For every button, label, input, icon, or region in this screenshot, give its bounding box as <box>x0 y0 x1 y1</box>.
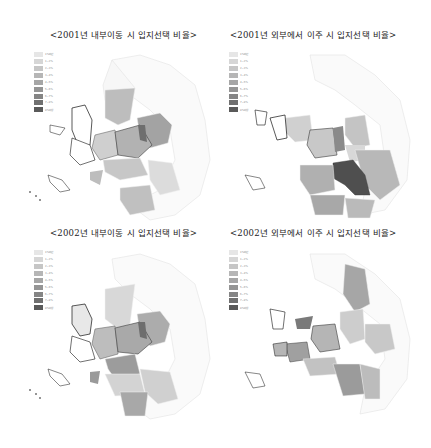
legend-item: 8%이상 <box>229 107 248 113</box>
legend-item: 1~2% <box>34 256 53 262</box>
map-legend: 1%미만 1~2% 2~3% 3~4% 4~5% 5~6% 6~7% 7~8% … <box>34 249 53 312</box>
legend-item: 6~7% <box>34 291 53 297</box>
legend-item: 1%미만 <box>229 249 248 255</box>
legend-item: 3~4% <box>229 270 248 276</box>
legend-item: 2~3% <box>229 65 248 71</box>
legend-item: 8%이상 <box>34 107 53 113</box>
legend-item: 2~3% <box>229 263 248 269</box>
choropleth-map <box>0 0 215 224</box>
map-panel-2002-external: <2002년 외부에서 이주 시 입지선택 비율> 1%미만 1~2% 2~3%… <box>215 224 430 448</box>
legend-item: 4~5% <box>34 277 53 283</box>
legend-item: 4~5% <box>229 277 248 283</box>
legend-item: 6~7% <box>229 93 248 99</box>
legend-item: 7~8% <box>34 100 53 106</box>
legend-item: 4~5% <box>229 79 248 85</box>
legend-item: 1%미만 <box>229 51 248 57</box>
map-legend: 1%미만 1~2% 2~3% 3~4% 4~5% 5~6% 6~7% 7~8% … <box>34 51 53 114</box>
legend-item: 3~4% <box>34 270 53 276</box>
map-legend: 1%미만 1~2% 2~3% 3~4% 4~5% 5~6% 6~7% 7~8% … <box>229 249 248 312</box>
legend-item: 4~5% <box>34 79 53 85</box>
legend-item: 5~6% <box>34 284 53 290</box>
legend-item: 7~8% <box>229 298 248 304</box>
legend-item: 3~4% <box>229 72 248 78</box>
legend-item: 5~6% <box>34 86 53 92</box>
map-panel-2002-internal: <2002년 내부이동 시 입지선택 비율> 1%미만 1~2% 2~3% 3~… <box>0 224 215 448</box>
map-panel-2001-internal: <2001년 내부이동 시 입지선택 비율> 1%미만 1~2% 2~3% 3~… <box>0 0 215 224</box>
map-panel-2001-external: <2001년 외부에서 이주 시 입지선택 비율> 1%미만 1~2% 2~3%… <box>215 0 430 224</box>
legend-item: 1%미만 <box>34 249 53 255</box>
legend-item: 1%미만 <box>34 51 53 57</box>
legend-item: 6~7% <box>34 93 53 99</box>
legend-item: 5~6% <box>229 86 248 92</box>
legend-item: 1~2% <box>229 58 248 64</box>
legend-item: 1~2% <box>34 58 53 64</box>
choropleth-map <box>0 224 215 448</box>
legend-item: 8%이상 <box>229 305 248 311</box>
legend-item: 7~8% <box>34 298 53 304</box>
legend-item: 3~4% <box>34 72 53 78</box>
legend-item: 2~3% <box>34 263 53 269</box>
legend-item: 7~8% <box>229 100 248 106</box>
legend-item: 2~3% <box>34 65 53 71</box>
map-legend: 1%미만 1~2% 2~3% 3~4% 4~5% 5~6% 6~7% 7~8% … <box>229 51 248 114</box>
legend-item: 1~2% <box>229 256 248 262</box>
legend-item: 5~6% <box>229 284 248 290</box>
legend-item: 8%이상 <box>34 305 53 311</box>
legend-item: 6~7% <box>229 291 248 297</box>
